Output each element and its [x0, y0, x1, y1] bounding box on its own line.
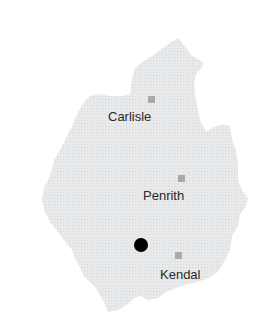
town-marker-penrith	[178, 175, 185, 182]
location-marker-dot	[134, 238, 148, 252]
town-marker-kendal	[175, 252, 182, 259]
town-marker-carlisle	[148, 96, 155, 103]
town-label-penrith: Penrith	[143, 189, 184, 202]
town-label-kendal: Kendal	[160, 268, 200, 281]
town-label-carlisle: Carlisle	[108, 110, 151, 123]
region-outline	[0, 0, 274, 322]
